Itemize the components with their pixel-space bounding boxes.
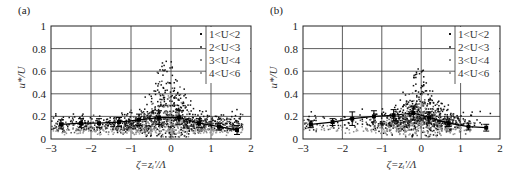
scatter-point <box>336 130 338 132</box>
scatter-point <box>421 116 423 118</box>
scatter-point <box>421 85 423 87</box>
scatter-point <box>374 130 376 132</box>
scatter-point <box>180 106 182 108</box>
scatter-point <box>382 124 384 126</box>
scatter-point <box>211 121 213 123</box>
scatter-point <box>53 130 55 132</box>
scatter-point <box>188 126 190 128</box>
scatter-point <box>103 130 105 132</box>
scatter-point <box>72 121 74 123</box>
scatter-point <box>150 128 152 130</box>
scatter-point <box>444 116 446 118</box>
scatter-point <box>460 115 462 117</box>
scatter-point <box>172 130 174 132</box>
scatter-point <box>117 132 119 134</box>
scatter-point <box>324 130 326 132</box>
scatter-point <box>393 125 395 127</box>
y-axis-label: u*/U <box>15 65 27 88</box>
scatter-point <box>362 119 364 121</box>
scatter-point <box>437 108 439 110</box>
scatter-point <box>408 106 410 108</box>
scatter-point <box>166 136 168 138</box>
scatter-point <box>447 116 449 118</box>
scatter-point <box>63 126 64 128</box>
y-tick-label: 0 <box>41 133 47 145</box>
scatter-point <box>403 118 405 120</box>
legend-marker <box>449 33 451 35</box>
scatter-point <box>195 114 197 116</box>
scatter-point <box>436 104 438 106</box>
scatter-point <box>446 130 448 132</box>
scatter-point <box>428 108 430 110</box>
scatter-point <box>416 111 418 113</box>
scatter-point <box>437 110 439 112</box>
scatter-point <box>399 133 401 135</box>
scatter-point <box>438 123 440 125</box>
scatter-point <box>419 107 421 109</box>
scatter-point <box>381 121 383 123</box>
scatter-point <box>214 120 216 122</box>
scatter-point <box>153 128 155 129</box>
scatter-point <box>242 126 244 128</box>
scatter-point <box>199 117 201 119</box>
scatter-point <box>440 116 442 118</box>
scatter-point <box>72 129 74 131</box>
scatter-point <box>70 132 72 134</box>
x-axis-label: ζ=zᵢ'/Λ <box>387 158 417 171</box>
scatter-point <box>427 94 429 96</box>
scatter-point <box>142 121 144 123</box>
scatter-point <box>213 131 215 133</box>
scatter-point <box>435 112 437 114</box>
scatter-point <box>411 129 413 131</box>
scatter-point <box>62 132 64 134</box>
scatter-point <box>125 123 127 125</box>
scatter-point <box>231 111 233 113</box>
scatter-point <box>417 128 419 130</box>
scatter-point <box>168 130 170 132</box>
x-tick-label: −1 <box>125 142 137 154</box>
scatter-point <box>428 124 430 126</box>
scatter-point <box>168 97 170 99</box>
scatter-point <box>429 90 431 92</box>
scatter-point <box>152 103 154 105</box>
scatter-point <box>150 134 152 136</box>
scatter-point <box>463 118 465 120</box>
scatter-point <box>164 92 166 94</box>
scatter-point <box>414 132 416 134</box>
scatter-point <box>179 86 181 88</box>
scatter-point <box>405 105 407 107</box>
scatter-point <box>438 125 440 127</box>
scatter-point <box>151 124 153 126</box>
scatter-point <box>229 129 231 131</box>
scatter-point <box>135 132 137 134</box>
scatter-point <box>404 129 406 131</box>
scatter-point <box>133 116 135 118</box>
scatter-point <box>111 126 113 128</box>
scatter-point <box>155 90 157 92</box>
scatter-point <box>458 126 460 128</box>
scatter-point <box>454 133 456 135</box>
scatter-point <box>168 126 170 128</box>
scatter-point <box>138 128 140 130</box>
scatter-point <box>173 120 175 122</box>
scatter-point <box>376 114 378 116</box>
scatter-point <box>424 99 426 101</box>
scatter-point <box>173 131 175 133</box>
scatter-point <box>327 125 329 127</box>
scatter-point <box>145 131 147 133</box>
scatter-point <box>437 125 439 127</box>
scatter-point <box>203 116 205 118</box>
scatter-point <box>206 131 208 133</box>
scatter-point <box>150 133 152 135</box>
scatter-point <box>114 119 116 121</box>
scatter-point <box>185 97 187 99</box>
scatter-point <box>386 124 388 126</box>
scatter-point <box>162 62 164 64</box>
scatter-point <box>147 113 149 115</box>
scatter-point <box>77 130 79 132</box>
scatter-point <box>95 120 97 122</box>
scatter-point <box>413 85 415 87</box>
scatter-point <box>436 124 438 126</box>
scatter-point <box>192 117 194 119</box>
scatter-point <box>80 132 82 134</box>
